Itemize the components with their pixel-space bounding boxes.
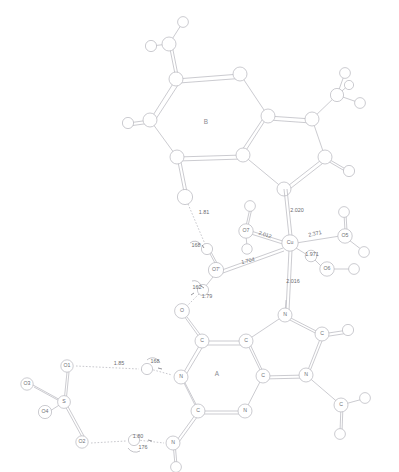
atom-node (342, 324, 353, 335)
atom-node (174, 370, 188, 384)
bond-distance-label: 1.80 (133, 433, 144, 439)
bond-angle-label: 176 (139, 444, 148, 450)
atom-node (236, 148, 250, 162)
atom-node (315, 327, 329, 341)
atom-node (359, 247, 370, 258)
atom-node (171, 462, 182, 472)
atom-node (245, 201, 256, 212)
atom-node-o5 (338, 229, 352, 243)
bond-distance-label: 1.704 (241, 256, 256, 265)
ring-label-A: A (215, 370, 220, 377)
atom-node (233, 67, 247, 81)
atom-node (178, 17, 189, 28)
bond-distance-label: 1.85 (114, 360, 125, 366)
atom-node (256, 369, 270, 383)
atom-node (334, 398, 348, 412)
molecular-structure-svg: BA O7CuO5O6O7'ONCCCNCNCNCNO1O2O3O4S 1.81… (0, 0, 399, 472)
atom-node (143, 113, 157, 127)
atom-node (349, 264, 360, 275)
atom-node (343, 165, 354, 176)
atom-node-o4 (38, 405, 51, 418)
atom-node (330, 88, 343, 101)
atom-node-o2 (76, 436, 88, 448)
atom-node-o6 (320, 262, 334, 276)
atom-node (360, 393, 371, 404)
atom-node (261, 109, 275, 123)
atom-node (195, 334, 209, 348)
structure-diagram-canvas: BA O7CuO5O6O7'ONCCCNCNCNCNO1O2O3O4S 1.81… (0, 0, 399, 472)
bond-distance-label: 1.79 (202, 293, 213, 299)
atom-node (177, 189, 192, 204)
atom-node (340, 68, 351, 79)
atom-node (305, 112, 319, 126)
atom-node (170, 150, 184, 164)
atom-node (162, 37, 176, 51)
atom-node-o3 (21, 378, 33, 390)
atom-node (122, 117, 133, 128)
bond-distance-label: 1.81 (199, 209, 210, 215)
atom-node-o1 (61, 360, 73, 372)
atom-node (201, 243, 212, 254)
atom-node (191, 404, 205, 418)
unit-b-skeleton (122, 17, 365, 205)
atom-node-s (58, 396, 71, 409)
atom-node (242, 244, 252, 254)
atom-node-o7prime (208, 262, 223, 277)
bond-angle-label: 162 (193, 284, 202, 290)
ring-label-B: B (204, 118, 208, 125)
atom-node (299, 368, 313, 382)
atom-node (175, 304, 190, 319)
atom-node (169, 72, 183, 86)
atom-node (335, 429, 346, 440)
atom-node (166, 436, 180, 450)
bond-angle-label: 168 (192, 242, 201, 248)
atom-node (238, 404, 252, 418)
atom-node (318, 150, 332, 164)
atom-label-layer: O7CuO5O6O7'ONCCCNCNCNCNO1O2O3O4S (24, 227, 349, 445)
unit-a-skeleton (166, 300, 370, 472)
atom-node (339, 207, 350, 218)
hydrogen-bond-network (76, 204, 205, 452)
bond-distance-label: 2.371 (308, 229, 322, 238)
atom-node (355, 98, 366, 109)
atom-node (278, 308, 292, 322)
atom-node (344, 80, 353, 89)
bond-distance-label: 2.012 (258, 230, 273, 240)
atom-node-cu (282, 235, 298, 251)
atom-node (141, 363, 152, 374)
bond-distance-label: 2.016 (286, 278, 300, 284)
bond-distance-label: 2.020 (290, 207, 304, 213)
atom-node-o7 (239, 224, 253, 238)
bond-angle-label: 168 (151, 358, 160, 364)
bond-distance-label: 1.971 (305, 251, 319, 257)
sulfate-group (21, 360, 88, 448)
atom-node (239, 334, 253, 348)
copper-coordination-sphere (197, 189, 369, 311)
atom-node (145, 40, 156, 51)
